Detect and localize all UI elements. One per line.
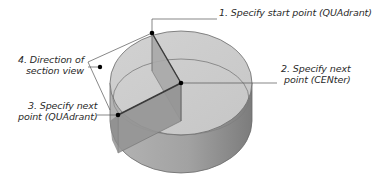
label-step4-line2: section view (18, 65, 84, 76)
next-point-quadrant (116, 113, 121, 118)
center-point (179, 81, 184, 86)
start-point-quadrant (150, 31, 155, 36)
label-step4: 4. Direction of section view (18, 54, 84, 76)
label-step2: 2. Specify next point (CENter) (281, 63, 351, 85)
label-step1: 1. Specify start point (QUAdrant) (219, 7, 372, 18)
label-step3: 3. Specify next point (QUAdrant) (18, 100, 98, 122)
label-step4-line1: 4. Direction of (18, 54, 84, 65)
direction-point (98, 65, 102, 69)
label-step1-line1: 1. Specify start point (QUAdrant) (219, 7, 372, 18)
label-step3-line2: point (QUAdrant) (18, 111, 98, 122)
label-step2-line1: 2. Specify next (281, 63, 351, 74)
label-step2-line2: point (CENter) (281, 74, 351, 85)
label-step3-line1: 3. Specify next (18, 100, 98, 111)
